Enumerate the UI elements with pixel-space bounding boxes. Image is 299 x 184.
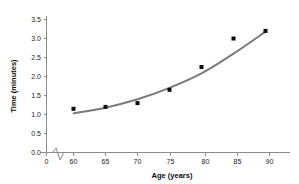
chart-figure: 3.5 3.0 2.5 2.0 1.5 1.0 0.5 0.0 Time (mi… xyxy=(0,0,299,184)
y-tick-label-2-0: 2.0 xyxy=(31,73,41,80)
data-point xyxy=(104,105,108,109)
data-point xyxy=(168,88,172,92)
x-tick-label-85: 85 xyxy=(234,158,242,165)
x-tick-label-80: 80 xyxy=(202,158,210,165)
y-tick-label-1-0: 1.0 xyxy=(31,111,41,118)
data-point xyxy=(264,29,268,33)
x-tick-label-90: 90 xyxy=(266,158,274,165)
x-tick-label-65: 65 xyxy=(102,158,110,165)
data-point xyxy=(200,65,204,69)
data-point-group xyxy=(72,29,268,111)
axis-break-icon xyxy=(52,148,64,160)
y-axis-title: Time (minutes) xyxy=(9,59,18,113)
x-tick-label-60: 60 xyxy=(70,158,78,165)
data-point xyxy=(136,101,140,105)
x-tick-label-70: 70 xyxy=(134,158,142,165)
y-tick-label-0-0: 0.0 xyxy=(31,149,41,156)
x-axis-title: Age (years) xyxy=(152,171,193,180)
y-tick-label-3-5: 3.5 xyxy=(31,16,41,23)
y-tick-label-2-5: 2.5 xyxy=(31,54,41,61)
x-tick-label-75: 75 xyxy=(167,158,175,165)
y-tick-label-0-5: 0.5 xyxy=(31,130,41,137)
data-point xyxy=(72,107,76,111)
fitted-trend-curve xyxy=(74,32,266,114)
scatter-plot-canvas: 3.5 3.0 2.5 2.0 1.5 1.0 0.5 0.0 Time (mi… xyxy=(0,0,299,184)
x-tick-label-0: 0 xyxy=(45,158,49,165)
y-tick-label-1-5: 1.5 xyxy=(31,92,41,99)
y-tick-label-3-0: 3.0 xyxy=(31,35,41,42)
data-point xyxy=(232,37,236,41)
